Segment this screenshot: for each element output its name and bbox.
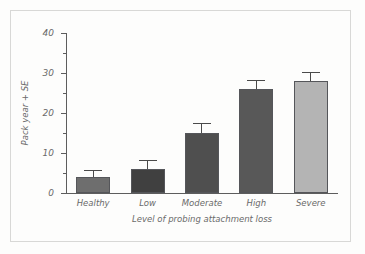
x-tick-label: Moderate <box>182 199 222 208</box>
error-bar-cap <box>302 72 320 73</box>
bar-slot: High <box>229 33 283 193</box>
error-bar-stem <box>93 171 94 177</box>
error-bar-cap <box>247 80 265 81</box>
error-bar-cap <box>84 170 102 171</box>
figure: Pack year + SE 010203040 HealthyLowModer… <box>0 0 365 254</box>
bar <box>294 81 328 193</box>
bar <box>185 133 219 193</box>
bar-slot: Low <box>120 33 174 193</box>
plot-area: 010203040 HealthyLowModerateHighSevere <box>66 33 344 193</box>
error-bar-cap <box>139 160 157 161</box>
error-bar-cap <box>193 123 211 124</box>
x-tick-label: Low <box>139 199 156 208</box>
y-tick-major: 0 <box>61 193 66 194</box>
y-axis-title: Pack year + SE <box>21 81 30 146</box>
error-bar-stem <box>256 81 257 89</box>
x-axis-line <box>66 193 338 194</box>
y-tick-label: 30 <box>43 69 54 78</box>
bar <box>131 169 165 193</box>
bar-slot: Severe <box>284 33 338 193</box>
y-tick-label: 0 <box>48 189 54 198</box>
error-bar-stem <box>147 161 148 169</box>
bar <box>239 89 273 193</box>
y-tick-label: 10 <box>43 149 54 158</box>
bar-slot: Moderate <box>175 33 229 193</box>
x-tick-label: Healthy <box>77 199 110 208</box>
bar-slot: Healthy <box>66 33 120 193</box>
error-bar-stem <box>310 73 311 81</box>
x-tick-label: Severe <box>296 199 326 208</box>
error-bar-stem <box>201 124 202 133</box>
x-tick-label: High <box>247 199 267 208</box>
x-axis-title: Level of probing attachment loss <box>66 215 338 224</box>
y-tick-label: 40 <box>43 29 54 38</box>
y-tick-label: 20 <box>43 109 54 118</box>
bar <box>76 177 110 193</box>
